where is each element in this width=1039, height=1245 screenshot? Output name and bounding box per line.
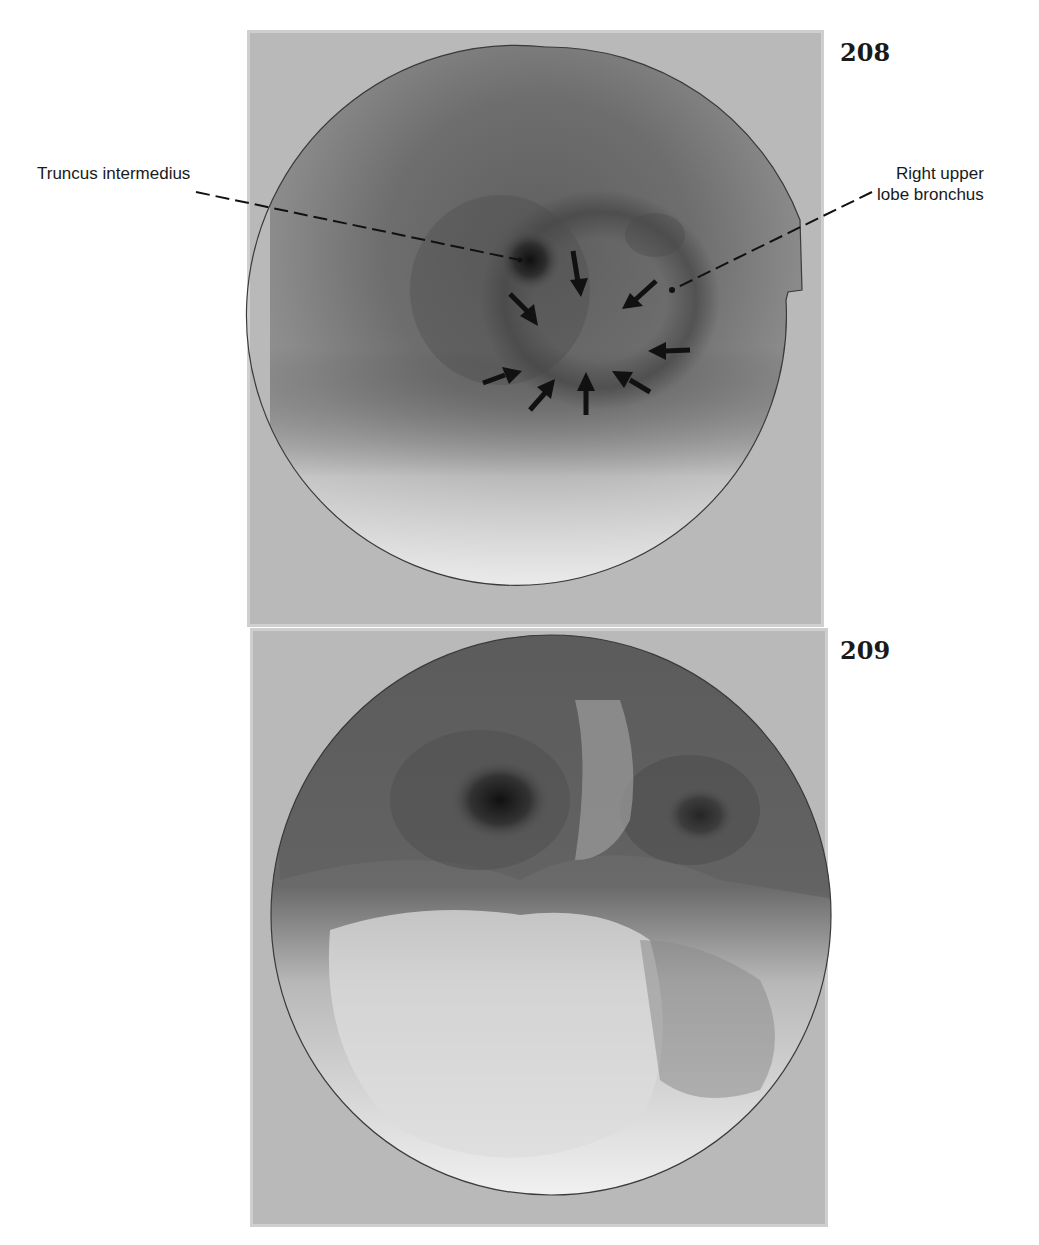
label-right-upper-line1: Right upper bbox=[877, 163, 984, 184]
figure-208-image bbox=[270, 40, 830, 600]
figure-number-208: 208 bbox=[840, 38, 890, 67]
label-right-upper-line2: lobe bronchus bbox=[877, 184, 984, 205]
figure-number-209: 209 bbox=[840, 636, 890, 665]
label-right-upper-lobe-bronchus: Right upper lobe bronchus bbox=[877, 163, 984, 205]
label-truncus-intermedius: Truncus intermedius bbox=[37, 163, 190, 184]
figure-209-image bbox=[270, 630, 840, 1200]
